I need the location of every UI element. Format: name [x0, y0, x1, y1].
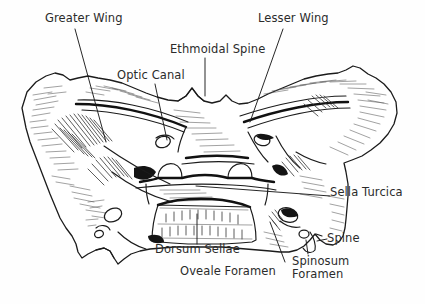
label-optic-canal: Optic Canal	[117, 69, 185, 82]
label-spine: Spine	[327, 232, 360, 245]
label-greater-wing: Greater Wing	[45, 12, 123, 25]
label-lesser-wing: Lesser Wing	[258, 12, 329, 25]
label-dorsum-sellae: Dorsum Sellae	[155, 243, 240, 256]
label-oveale-foramen: Oveale Foramen	[180, 265, 276, 278]
label-ethmoidal-spine: Ethmoidal Spine	[170, 43, 265, 56]
spinosum-foramen-opening-right	[299, 230, 309, 238]
figure-page: .outline { fill:#ffffff; stroke:#1b1b1b;…	[0, 0, 425, 304]
label-sella-turcica: Sella Turcica	[330, 186, 403, 199]
label-spinosum-foramen-line2: Foramen	[292, 267, 343, 281]
label-spinosum-foramen: Spinosum Foramen	[292, 255, 349, 281]
